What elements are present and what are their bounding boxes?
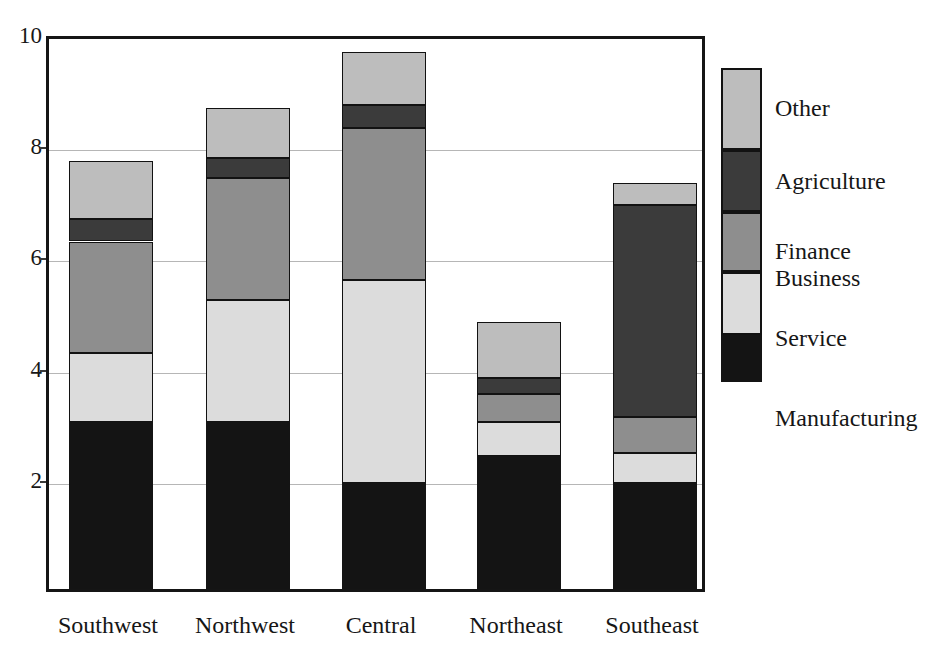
bar-segment-service[interactable] xyxy=(206,300,290,422)
legend-label-service: Service xyxy=(775,325,847,352)
x-axis-label-central: Central xyxy=(311,612,451,638)
legend-label-line2: Business xyxy=(775,265,860,292)
y-axis-tick-label: 2 xyxy=(4,469,42,492)
y-axis-tick-label: 8 xyxy=(4,135,42,158)
bar-northeast[interactable] xyxy=(477,33,561,589)
legend-label-manufacturing: Manufacturing xyxy=(775,405,918,432)
bar-segment-other[interactable] xyxy=(206,108,290,158)
legend-label-finance: FinanceBusiness xyxy=(775,238,860,292)
bar-segment-manufacturing[interactable] xyxy=(206,422,290,589)
x-axis-label-southeast: Southeast xyxy=(582,612,722,638)
legend-label-other: Other xyxy=(775,95,830,122)
bar-segment-finance[interactable] xyxy=(206,178,290,300)
legend-label-agriculture: Agriculture xyxy=(775,168,886,195)
x-axis-label-northwest: Northwest xyxy=(175,612,315,638)
x-axis-label-southwest: Southwest xyxy=(38,612,178,638)
bar-segment-manufacturing[interactable] xyxy=(477,456,561,589)
bar-segment-manufacturing[interactable] xyxy=(613,483,697,589)
legend-swatch-manufacturing[interactable] xyxy=(721,335,762,382)
plot-area xyxy=(46,36,705,592)
bar-segment-manufacturing[interactable] xyxy=(69,422,153,589)
bar-segment-agriculture[interactable] xyxy=(206,158,290,177)
y-axis-tick-label: 6 xyxy=(4,246,42,269)
legend-label-line1: Manufacturing xyxy=(775,405,918,431)
legend-swatch-other[interactable] xyxy=(721,68,762,150)
bar-segment-finance[interactable] xyxy=(613,417,697,453)
y-axis: 246810 xyxy=(0,0,42,657)
bar-segment-service[interactable] xyxy=(477,422,561,455)
bar-segment-other[interactable] xyxy=(69,161,153,219)
legend-label-line1: Other xyxy=(775,95,830,121)
legend-swatch-service[interactable] xyxy=(721,272,762,335)
legend-label-line1: Service xyxy=(775,325,847,351)
x-axis-label-northeast: Northeast xyxy=(446,612,586,638)
legend-swatch-agriculture[interactable] xyxy=(721,150,762,212)
bar-segment-manufacturing[interactable] xyxy=(342,483,426,589)
bar-segment-other[interactable] xyxy=(613,183,697,205)
bar-segment-service[interactable] xyxy=(342,280,426,483)
stacked-bar-chart: 246810 SouthwestNorthwestCentralNortheas… xyxy=(0,0,928,657)
bar-segment-other[interactable] xyxy=(342,52,426,105)
bar-segment-agriculture[interactable] xyxy=(69,219,153,241)
bar-segment-finance[interactable] xyxy=(342,128,426,281)
bar-segment-service[interactable] xyxy=(613,453,697,484)
bar-segment-finance[interactable] xyxy=(477,394,561,422)
bar-segment-agriculture[interactable] xyxy=(342,105,426,127)
bar-segment-service[interactable] xyxy=(69,353,153,423)
bar-northwest[interactable] xyxy=(206,33,290,589)
legend-swatch-finance[interactable] xyxy=(721,212,762,272)
y-axis-tick-label: 4 xyxy=(4,358,42,381)
legend-swatch-column xyxy=(721,68,762,382)
bar-central[interactable] xyxy=(342,33,426,589)
bar-segment-agriculture[interactable] xyxy=(477,378,561,395)
bar-segment-other[interactable] xyxy=(477,322,561,378)
bar-southeast[interactable] xyxy=(613,33,697,589)
legend-label-line1: Agriculture xyxy=(775,168,886,194)
bar-southwest[interactable] xyxy=(69,33,153,589)
bar-segment-agriculture[interactable] xyxy=(613,205,697,416)
legend-label-line1: Finance xyxy=(775,238,851,264)
bar-segment-finance[interactable] xyxy=(69,242,153,353)
y-axis-tick-label: 10 xyxy=(4,24,42,47)
